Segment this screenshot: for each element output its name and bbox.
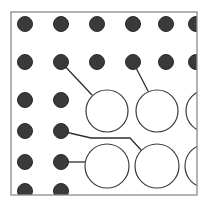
dark-dot: [54, 124, 69, 139]
dark-dot: [18, 184, 33, 199]
dark-dot: [18, 17, 33, 32]
dark-dot: [90, 17, 105, 32]
diagram-canvas: [0, 0, 208, 204]
dark-dot: [18, 155, 33, 170]
dark-dot: [126, 55, 141, 70]
dark-dot: [54, 93, 69, 108]
dark-dot: [189, 55, 204, 70]
dark-dot: [54, 184, 69, 199]
dark-dot: [54, 155, 69, 170]
dark-dot: [54, 17, 69, 32]
hollow-circle: [86, 90, 128, 132]
dark-dot: [126, 17, 141, 32]
dark-dot: [90, 55, 105, 70]
dark-dot: [159, 17, 174, 32]
diagram-content: [18, 17, 209, 199]
dark-dot: [159, 55, 174, 70]
dark-dot: [189, 17, 204, 32]
dot-grid-diagram: [0, 0, 208, 204]
hollow-circles: [85, 90, 208, 188]
dark-dot: [18, 55, 33, 70]
hollow-circle: [136, 90, 178, 132]
dark-dot: [54, 55, 69, 70]
hollow-circle: [85, 144, 129, 188]
dark-dot: [18, 93, 33, 108]
hollow-circle: [135, 144, 179, 188]
dark-dot: [18, 124, 33, 139]
